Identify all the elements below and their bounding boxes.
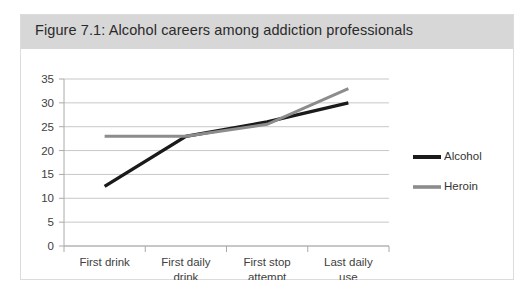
y-axis-tick-label: 15 <box>41 168 54 180</box>
y-axis-tick-label: 25 <box>41 121 54 133</box>
x-axis-tick-label: First daily <box>161 256 210 268</box>
line-chart: 05101520253035First drinkFirst dailydrin… <box>21 49 513 280</box>
x-axis-tick-label: First stop <box>243 256 290 268</box>
y-axis-tick-label: 10 <box>41 192 54 204</box>
chart-plot-region: 05101520253035First drinkFirst dailydrin… <box>21 49 513 280</box>
x-axis-tick-label: attempt <box>248 271 287 280</box>
y-axis-tick-label: 35 <box>41 73 54 85</box>
figure-title-band: Figure 7.1: Alcohol careers among addict… <box>21 15 513 49</box>
y-axis-tick-label: 0 <box>48 240 54 252</box>
legend-label-alcohol: Alcohol <box>444 150 482 162</box>
x-axis-tick-label: First drink <box>79 256 130 268</box>
legend-label-heroin: Heroin <box>444 180 478 192</box>
y-axis-tick-label: 30 <box>41 97 54 109</box>
x-axis-tick-label: use <box>339 271 358 280</box>
figure-title: Figure 7.1: Alcohol careers among addict… <box>35 22 413 38</box>
y-axis-tick-label: 5 <box>48 216 54 228</box>
x-axis-tick-label: drink <box>173 271 198 280</box>
y-axis-tick-label: 20 <box>41 145 54 157</box>
series-line-alcohol <box>105 103 349 187</box>
figure-container: Figure 7.1: Alcohol careers among addict… <box>20 14 514 280</box>
x-axis-tick-label: Last daily <box>324 256 373 268</box>
